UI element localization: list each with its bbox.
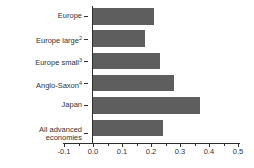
category-tick: [84, 39, 88, 40]
category-label-line: Japan: [0, 101, 82, 109]
footnote-ref: 4: [79, 80, 82, 86]
category-label-line: Anglo-Saxon4: [0, 79, 82, 90]
x-minor-tick: [166, 144, 167, 146]
category-tick: [84, 83, 88, 84]
bar-japan: [93, 97, 200, 114]
category-tick: [84, 133, 88, 134]
bar-all-advanced-economies: [93, 120, 163, 137]
footnote-ref: 3: [79, 57, 82, 63]
category-label-all-advanced-economies: All advancedeconomies: [0, 126, 82, 142]
category-label-europe: Europe: [0, 12, 82, 20]
x-tick-label: 0.0: [81, 148, 105, 156]
x-tick-label: 0.1: [110, 148, 134, 156]
bar-europe-small: [93, 53, 160, 70]
x-tick-label: -0.1: [52, 148, 76, 156]
x-minor-tick: [195, 144, 196, 146]
category-tick: [84, 16, 88, 17]
category-label-line: Europe: [0, 12, 82, 20]
category-label-line: Europe small3: [0, 56, 82, 67]
category-label-line: Europe large2: [0, 34, 82, 45]
x-tick-label: 0.2: [139, 148, 163, 156]
x-minor-tick: [224, 144, 225, 146]
x-tick-label: 0.4: [197, 148, 221, 156]
category-tick: [84, 105, 88, 106]
x-tick-label: 0.5: [226, 148, 250, 156]
bar-europe: [93, 8, 154, 25]
category-label-line: economies: [0, 134, 82, 142]
bar-europe-large: [93, 30, 145, 47]
category-label-europe-small: Europe small3: [0, 56, 82, 67]
category-tick: [84, 61, 88, 62]
x-minor-tick: [108, 144, 109, 146]
category-label-europe-large: Europe large2: [0, 34, 82, 45]
x-minor-tick: [79, 144, 80, 146]
category-label-japan: Japan: [0, 101, 82, 109]
x-minor-tick: [137, 144, 138, 146]
footnote-ref: 2: [79, 35, 82, 41]
screenshot-root: -0.10.00.10.20.30.40.5EuropeEurope large…: [0, 0, 254, 168]
bar-anglo-saxon: [93, 75, 174, 92]
x-tick-label: 0.3: [168, 148, 192, 156]
bar-chart: -0.10.00.10.20.30.40.5EuropeEurope large…: [0, 0, 254, 168]
category-label-anglo-saxon: Anglo-Saxon4: [0, 79, 82, 90]
